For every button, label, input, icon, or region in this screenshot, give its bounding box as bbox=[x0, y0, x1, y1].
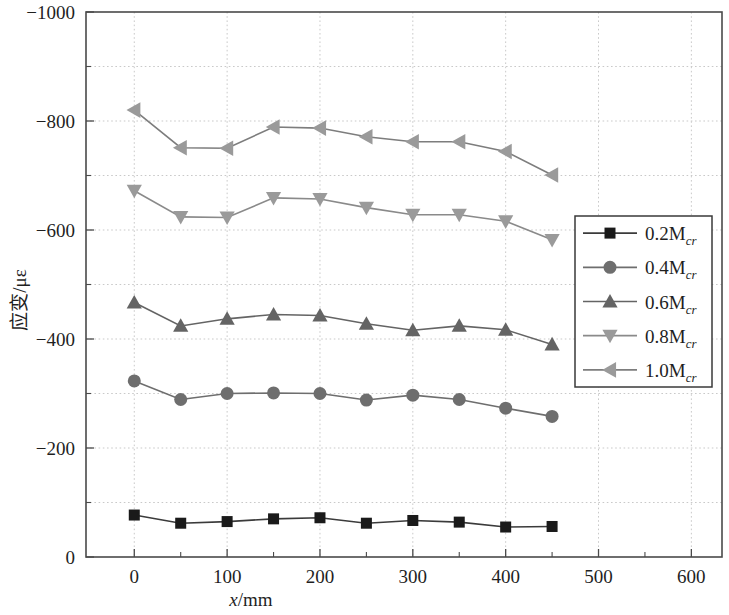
data-point-marker bbox=[313, 387, 326, 400]
series-line bbox=[134, 381, 552, 416]
data-point-marker bbox=[314, 512, 325, 523]
data-point-marker bbox=[544, 167, 558, 183]
x-axis-tick-label: 400 bbox=[491, 566, 520, 587]
data-point-marker bbox=[359, 129, 373, 145]
data-point-marker bbox=[360, 394, 373, 407]
data-series bbox=[126, 102, 559, 532]
data-point-marker bbox=[405, 134, 419, 150]
x-axis-tick-label: 300 bbox=[399, 566, 428, 587]
y-axis-tick-label: −200 bbox=[36, 438, 75, 459]
data-point-marker bbox=[266, 307, 281, 321]
data-point-marker bbox=[454, 517, 465, 528]
data-point-marker bbox=[546, 410, 559, 423]
data-point-marker bbox=[127, 185, 142, 199]
y-axis-title: 应变/με bbox=[9, 269, 30, 330]
y-axis-tick-label: −800 bbox=[36, 111, 75, 132]
data-point-marker bbox=[605, 228, 616, 239]
y-axis-tick-label: −400 bbox=[36, 329, 75, 350]
data-point-marker bbox=[220, 212, 235, 226]
chart-legend: 0.2Mcr0.4Mcr0.6Mcr0.8Mcr1.0Mcr bbox=[575, 216, 712, 387]
x-axis-tick-label: 200 bbox=[306, 566, 335, 587]
data-point-marker bbox=[405, 209, 420, 223]
data-point-marker bbox=[126, 102, 140, 118]
data-point-marker bbox=[406, 389, 419, 402]
series-0-2Mcr bbox=[129, 510, 558, 533]
series-line bbox=[134, 302, 552, 344]
data-point-marker bbox=[129, 510, 140, 521]
x-axis-tick-label: 500 bbox=[584, 566, 613, 587]
series-line bbox=[134, 515, 552, 527]
strain-vs-position-line-chart: 0100200300400500600−1000−800−600−400−200… bbox=[0, 0, 729, 615]
data-point-marker bbox=[544, 234, 559, 248]
data-point-marker bbox=[222, 516, 233, 527]
x-axis-title: x/mm bbox=[228, 589, 272, 610]
series-0-4Mcr bbox=[128, 374, 559, 422]
series-0-6Mcr bbox=[127, 295, 560, 350]
x-axis-tick-label: 600 bbox=[677, 566, 706, 587]
x-axis-tick-label: 0 bbox=[130, 566, 140, 587]
data-point-marker bbox=[221, 387, 234, 400]
data-point-marker bbox=[268, 513, 279, 524]
data-point-marker bbox=[498, 215, 513, 229]
y-axis-tick-label: −600 bbox=[36, 220, 75, 241]
data-point-marker bbox=[500, 522, 511, 533]
data-point-marker bbox=[128, 374, 141, 387]
data-point-marker bbox=[451, 134, 465, 150]
data-point-marker bbox=[361, 518, 372, 529]
series-line bbox=[134, 110, 552, 175]
chart-figure: 0100200300400500600−1000−800−600−400−200… bbox=[0, 0, 729, 615]
data-point-marker bbox=[174, 393, 187, 406]
y-axis-tick-label: 0 bbox=[66, 547, 76, 568]
series-line bbox=[134, 191, 552, 240]
data-point-marker bbox=[266, 119, 280, 135]
series-0-8Mcr bbox=[127, 185, 560, 248]
data-point-marker bbox=[498, 144, 512, 160]
data-point-marker bbox=[267, 386, 280, 399]
data-point-marker bbox=[407, 515, 418, 526]
data-point-marker bbox=[499, 402, 512, 415]
y-axis-tick-label: −1000 bbox=[26, 2, 75, 23]
series-1-0Mcr bbox=[126, 102, 558, 182]
data-point-marker bbox=[547, 521, 558, 532]
data-point-marker bbox=[175, 518, 186, 529]
data-point-marker bbox=[219, 140, 233, 156]
data-point-marker bbox=[453, 393, 466, 406]
data-point-marker bbox=[127, 295, 142, 309]
data-point-marker bbox=[452, 318, 467, 332]
x-axis-tick-label: 100 bbox=[213, 566, 242, 587]
data-point-marker bbox=[312, 120, 326, 136]
data-point-marker bbox=[604, 261, 617, 274]
